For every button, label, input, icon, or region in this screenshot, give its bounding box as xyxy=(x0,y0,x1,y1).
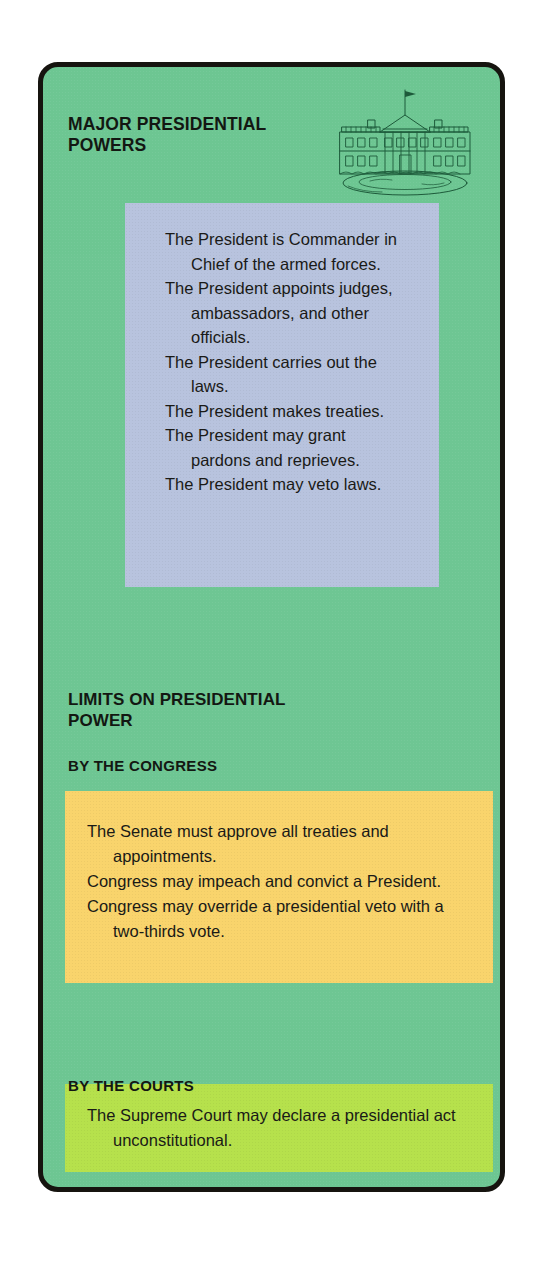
courts-limits-list: The Supreme Court may declare a presiden… xyxy=(87,1103,479,1153)
list-item: The President may grant pardons and repr… xyxy=(165,423,405,472)
list-item: The President is Commander in Chief of t… xyxy=(165,227,405,276)
list-item: The President appoints judges, ambassado… xyxy=(165,276,405,350)
white-house-icon xyxy=(330,85,480,197)
by-the-congress-subheading: BY THE CONGRESS xyxy=(68,757,217,774)
list-item: Congress may impeach and convict a Presi… xyxy=(87,869,479,894)
presidential-powers-card: MAJOR PRESIDENTIAL POWERS xyxy=(38,62,505,1192)
list-item: The Senate must approve all treaties and… xyxy=(87,819,479,869)
by-the-courts-subheading: BY THE COURTS xyxy=(68,1077,194,1094)
page-title: MAJOR PRESIDENTIAL POWERS xyxy=(68,114,333,156)
courts-limits-box: The Supreme Court may declare a presiden… xyxy=(65,1084,493,1172)
congress-limits-box: The Senate must approve all treaties and… xyxy=(65,791,493,983)
presidential-powers-box: The President is Commander in Chief of t… xyxy=(125,203,439,587)
list-item: The President carries out the laws. xyxy=(165,350,405,399)
list-item: The President may veto laws. xyxy=(165,472,405,497)
list-item: The President makes treaties. xyxy=(165,399,405,424)
congress-limits-list: The Senate must approve all treaties and… xyxy=(87,819,479,944)
limits-on-presidential-power-heading: LIMITS ON PRESIDENTIAL POWER xyxy=(68,689,368,731)
presidential-powers-list: The President is Commander in Chief of t… xyxy=(165,227,405,497)
list-item: The Supreme Court may declare a presiden… xyxy=(87,1103,479,1153)
list-item: Congress may override a presidential vet… xyxy=(87,894,479,944)
